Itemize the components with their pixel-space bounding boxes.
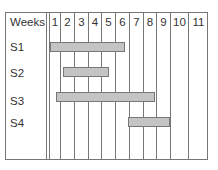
week-label: 4 — [89, 15, 101, 29]
week-label: 7 — [130, 15, 143, 29]
grid-line — [115, 12, 116, 160]
grid-line — [129, 12, 130, 160]
grid-line — [88, 12, 89, 160]
week-label: 10 — [171, 15, 188, 29]
grid-line — [60, 12, 61, 160]
grid-line — [74, 12, 75, 160]
week-label: 2 — [61, 15, 74, 29]
row-label-s2: S2 — [10, 66, 24, 80]
week-label: 9 — [157, 15, 170, 29]
grid-line — [170, 12, 171, 160]
task-bar-s1 — [50, 42, 125, 52]
row-label-s3: S3 — [10, 94, 24, 108]
grid-line — [143, 12, 144, 160]
label-divider-line-inner — [49, 12, 50, 160]
week-label: 8 — [144, 15, 156, 29]
grid-line — [188, 12, 189, 160]
week-label: 1 — [50, 15, 60, 29]
label-divider-line — [46, 12, 47, 160]
grid-line — [101, 12, 102, 160]
week-label: 6 — [116, 15, 129, 29]
gantt-frame — [5, 12, 208, 160]
week-label: 11 — [189, 15, 208, 29]
row-label-s1: S1 — [10, 40, 24, 54]
task-bar-s2 — [63, 67, 109, 77]
task-bar-s3 — [56, 92, 155, 102]
task-bar-s4 — [128, 117, 170, 127]
grid-line — [156, 12, 157, 160]
week-label: 3 — [75, 15, 88, 29]
weeks-header-label: Weeks — [10, 15, 45, 29]
week-label: 5 — [102, 15, 115, 29]
row-label-s4: S4 — [10, 116, 24, 130]
